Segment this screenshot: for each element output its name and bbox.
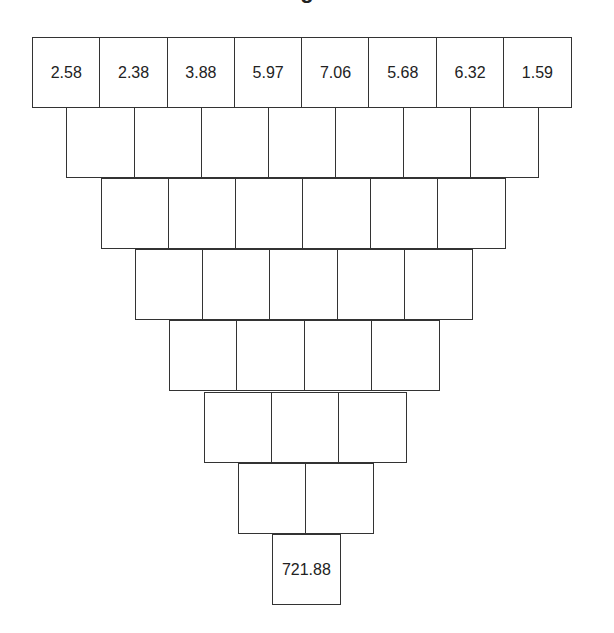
pyramid-cell[interactable]	[470, 107, 539, 178]
pyramid-cell[interactable]: 7.06	[301, 37, 370, 108]
pyramid-cell[interactable]	[338, 392, 407, 463]
pyramid-cell[interactable]	[370, 178, 439, 249]
pyramid-cell[interactable]	[404, 249, 473, 320]
pyramid-row-3	[101, 178, 506, 249]
pyramid-cell[interactable]	[201, 107, 270, 178]
pyramid-cell[interactable]	[371, 320, 440, 391]
pyramid-cell[interactable]	[302, 178, 371, 249]
pyramid-cell[interactable]	[236, 320, 305, 391]
pyramid-cell[interactable]	[335, 107, 404, 178]
number-pyramid: 2.58 2.38 3.88 5.97 7.06 5.68 6.32 1.59	[0, 0, 614, 633]
pyramid-cell[interactable]: 6.32	[436, 37, 505, 108]
pyramid-row-5	[169, 320, 439, 391]
pyramid-cell[interactable]: 1.59	[503, 37, 572, 108]
pyramid-cell[interactable]	[235, 178, 304, 249]
pyramid-cell[interactable]	[169, 320, 238, 391]
pyramid-cell[interactable]	[437, 178, 506, 249]
pyramid-cell[interactable]	[403, 107, 472, 178]
pyramid-cell[interactable]	[135, 249, 204, 320]
pyramid-cell[interactable]	[204, 392, 273, 463]
pyramid-row-4	[135, 249, 473, 320]
pyramid-cell[interactable]	[66, 107, 135, 178]
pyramid-row-7	[238, 463, 374, 534]
pyramid-row-8: 721.88	[272, 534, 341, 605]
pyramid-apex-cell[interactable]: 721.88	[272, 534, 341, 605]
pyramid-cell[interactable]	[202, 249, 271, 320]
pyramid-cell[interactable]	[337, 249, 406, 320]
pyramid-cell[interactable]	[101, 178, 170, 249]
pyramid-cell[interactable]: 2.58	[32, 37, 101, 108]
pyramid-cell[interactable]	[305, 463, 374, 534]
pyramid-row-2	[66, 107, 538, 178]
pyramid-cell[interactable]	[269, 249, 338, 320]
pyramid-row-1: 2.58 2.38 3.88 5.97 7.06 5.68 6.32 1.59	[32, 37, 572, 108]
pyramid-cell[interactable]: 5.97	[234, 37, 303, 108]
pyramid-row-6	[204, 392, 407, 463]
pyramid-cell[interactable]	[271, 392, 340, 463]
pyramid-cell[interactable]	[168, 178, 237, 249]
pyramid-cell[interactable]: 3.88	[167, 37, 236, 108]
pyramid-cell[interactable]	[304, 320, 373, 391]
pyramid-cell[interactable]	[268, 107, 337, 178]
pyramid-cell[interactable]: 2.38	[99, 37, 168, 108]
pyramid-cell[interactable]	[238, 463, 307, 534]
pyramid-cell[interactable]	[134, 107, 203, 178]
pyramid-cell[interactable]: 5.68	[368, 37, 437, 108]
